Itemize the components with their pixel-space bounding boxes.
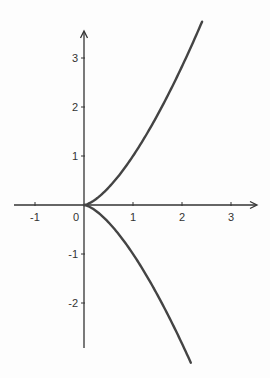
y-tick-label: 2 bbox=[72, 101, 78, 113]
y-tick-label: -1 bbox=[68, 248, 78, 260]
curve-upper-branch bbox=[84, 22, 202, 205]
x-tick-label: 3 bbox=[228, 211, 234, 223]
x-tick-label: -1 bbox=[30, 211, 40, 223]
x-tick-label: 2 bbox=[179, 211, 185, 223]
ticks: -10123321-1-2 bbox=[30, 52, 234, 309]
curve-lower-branch bbox=[84, 205, 191, 363]
curves bbox=[84, 22, 202, 363]
x-tick-label: 1 bbox=[130, 211, 136, 223]
y-tick-label: 3 bbox=[72, 52, 78, 64]
axes bbox=[14, 31, 257, 348]
y-tick-label: 1 bbox=[72, 150, 78, 162]
x-tick-label: 0 bbox=[73, 211, 79, 223]
chart-canvas: -10123321-1-2 bbox=[0, 0, 270, 378]
y-tick-label: -2 bbox=[68, 297, 78, 309]
